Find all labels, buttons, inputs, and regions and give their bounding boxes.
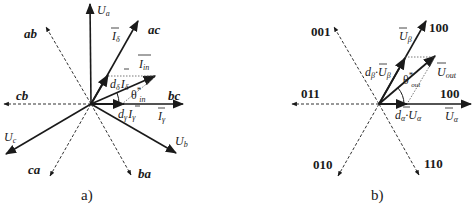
svg-text:Iin: Iin — [138, 57, 149, 72]
svg-text:Iδ: Iδ — [111, 29, 120, 44]
d-alpha-u-alpha-label: dα·Uα — [395, 107, 422, 123]
svg-text:Uα: Uα — [445, 109, 459, 124]
i-in-label: Iin — [138, 55, 151, 72]
diagram-a: Ua Ub Uc ab ac cb bc ca ba Iδ Iin dδIδ θ… — [4, 3, 188, 204]
svg-text:θ*out: θ*out — [403, 70, 421, 89]
svg-text:Uβ: Uβ — [399, 29, 412, 44]
svg-text:dα·Uα: dα·Uα — [395, 108, 422, 123]
ba-label: ba — [138, 166, 152, 181]
u-out-label: Uout — [437, 63, 457, 80]
label-001: 001 — [311, 24, 331, 39]
ab-vector-dashed-arrow — [46, 27, 91, 104]
u-alpha-label: Uα — [445, 108, 459, 124]
label-100-upper: 100 — [429, 20, 449, 35]
ca-label: ca — [28, 162, 41, 177]
theta-out-label: θ*out — [403, 70, 421, 89]
ab-label: ab — [24, 26, 38, 41]
svg-text:Uout: Uout — [437, 65, 457, 80]
theta-in-label: θ*in — [131, 85, 145, 104]
u-beta-label: Uβ — [399, 28, 412, 44]
ca-vector-dashed-arrow — [50, 104, 91, 176]
label-011: 011 — [301, 86, 320, 101]
ua-label: Ua — [97, 3, 110, 18]
theta-out-angle-arc — [398, 88, 404, 104]
svg-text:dδIδ: dδIδ — [110, 77, 129, 92]
label-100-right: 100 — [440, 86, 460, 101]
i-gamma-label: Iγ — [157, 108, 166, 124]
vector-001-dashed-arrow — [334, 27, 379, 104]
caption-a: a) — [81, 187, 93, 204]
diagram-b: 001 100 011 100 010 110 Uβ dβ·Uβ Uout θ*… — [292, 20, 471, 204]
bc-label: bc — [168, 88, 181, 103]
label-110: 110 — [424, 156, 443, 171]
svg-text:θ*in: θ*in — [131, 85, 145, 104]
d-delta-i-delta-label: dδIδ — [110, 69, 129, 92]
vector-010-dashed-arrow — [338, 104, 379, 176]
cb-label: cb — [16, 88, 29, 103]
space-vector-diagrams: Ua Ub Uc ab ac cb bc ca ba Iδ Iin dδIδ θ… — [0, 0, 474, 211]
caption-b: b) — [371, 187, 384, 204]
d-gamma-i-gamma-label: dγIγ — [118, 106, 140, 122]
label-010: 010 — [313, 157, 333, 172]
ub-label: Ub — [175, 134, 188, 149]
svg-text:dγIγ: dγIγ — [118, 107, 136, 122]
theta-in-angle-arc — [117, 93, 119, 104]
i-delta-label: Iδ — [111, 28, 120, 44]
svg-text:Iγ: Iγ — [157, 109, 166, 124]
uc-axis-arrow — [6, 104, 91, 154]
d-beta-u-beta-label: dβ·Uβ — [365, 64, 391, 80]
ac-label: ac — [148, 22, 161, 37]
uc-label: Uc — [4, 130, 17, 145]
ub-axis-arrow — [91, 104, 176, 153]
svg-text:dβ·Uβ: dβ·Uβ — [365, 65, 391, 80]
ua-axis-arrow — [90, 4, 91, 104]
